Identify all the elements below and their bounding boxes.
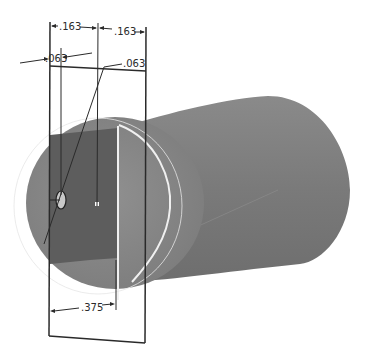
dim-label: .063 xyxy=(123,58,145,69)
dim-line xyxy=(66,53,92,57)
dim-line xyxy=(20,59,47,63)
dim-063-leader[interactable]: .063 xyxy=(104,58,145,69)
dim-label: .375 xyxy=(81,302,103,313)
arrow-left-icon xyxy=(99,26,104,30)
dim-163-right[interactable]: .163 xyxy=(99,26,145,37)
leader-line xyxy=(104,64,122,67)
dim-label: .163 xyxy=(114,26,136,37)
sketch-bottom-edge[interactable] xyxy=(49,336,145,343)
dim-line xyxy=(54,308,79,311)
sketch-right-edge[interactable] xyxy=(145,27,146,343)
dim-063-left[interactable]: .063 xyxy=(20,53,92,64)
arrow-right-icon xyxy=(110,302,115,306)
sketch-left-edge[interactable] xyxy=(49,22,50,336)
arrow-right-icon xyxy=(92,26,97,30)
dim-label: .063 xyxy=(45,53,67,64)
dim-375-bottom[interactable]: .375 xyxy=(50,302,115,313)
dim-163-left[interactable]: .163 xyxy=(51,21,97,32)
dim-label: .163 xyxy=(59,21,81,32)
arrow-right-icon xyxy=(140,30,145,34)
arrow-left-icon xyxy=(51,24,56,28)
cad-viewport[interactable]: .163 .163 .063 .063 .375 xyxy=(0,0,368,364)
